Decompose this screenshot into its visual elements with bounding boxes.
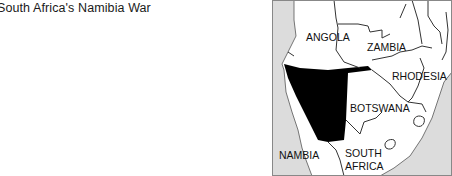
label-angola: ANGOLA [306, 31, 350, 43]
label-zambia: ZAMBIA [367, 41, 406, 53]
region-map: ANGOLA ZAMBIA RHODESIA BOTSWANA NAMBIA S… [272, 0, 452, 176]
label-namibia: NAMBIA [279, 149, 319, 161]
map-title: South Africa's Namibia War [0, 1, 151, 15]
label-south-africa-line2: AFRICA [345, 160, 384, 172]
label-south-africa-line1: SOUTH [345, 147, 382, 159]
label-botswana: BOTSWANA [350, 102, 410, 114]
label-rhodesia: RHODESIA [392, 70, 447, 82]
